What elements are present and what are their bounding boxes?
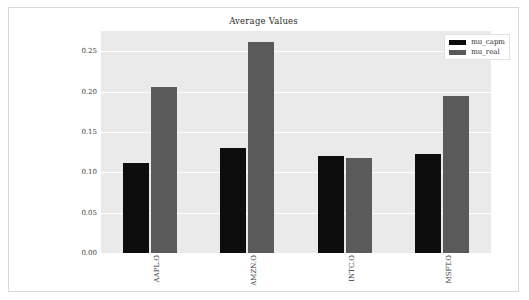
y-tick-label: 0.05 bbox=[81, 209, 97, 217]
bar-aapl-o-mu-capm bbox=[123, 163, 149, 253]
bar-group bbox=[101, 31, 199, 253]
gridline bbox=[101, 253, 491, 254]
y-tick-label: 0.15 bbox=[81, 128, 97, 136]
x-tick-label: MSFT.O bbox=[445, 255, 453, 283]
bar-msft-o-mu-capm bbox=[415, 154, 441, 253]
x-tick-label: AAPL.O bbox=[153, 255, 161, 282]
x-tick-label: INTC.O bbox=[348, 255, 356, 282]
legend-label-mu-capm: mu_capm bbox=[471, 38, 505, 46]
bar-msft-o-mu-real bbox=[443, 96, 469, 253]
figure-container: Average Values 0.000.050.100.150.200.25 … bbox=[8, 7, 519, 292]
bars-layer bbox=[101, 31, 491, 253]
x-tick-label: AMZN.O bbox=[250, 255, 258, 286]
legend-item-mu-real: mu_real bbox=[449, 47, 505, 57]
legend-swatch-icon-mu-real bbox=[449, 50, 466, 55]
bar-intc-o-mu-real bbox=[346, 158, 372, 253]
bar-aapl-o-mu-real bbox=[151, 87, 177, 253]
x-axis-tick-labels: AAPL.OAMZN.OINTC.OMSFT.O bbox=[101, 255, 491, 295]
chart-legend: mu_capm mu_real bbox=[444, 34, 510, 60]
y-tick-label: 0.20 bbox=[81, 88, 97, 96]
plot-area bbox=[101, 31, 491, 253]
y-tick-label: 0.00 bbox=[81, 249, 97, 257]
bar-group bbox=[199, 31, 297, 253]
bar-amzn-o-mu-real bbox=[248, 42, 274, 253]
legend-swatch-icon-mu-capm bbox=[449, 40, 466, 45]
bar-group bbox=[296, 31, 394, 253]
chart-title: Average Values bbox=[9, 16, 518, 26]
legend-item-mu-capm: mu_capm bbox=[449, 37, 505, 47]
legend-label-mu-real: mu_real bbox=[471, 48, 500, 56]
bar-group bbox=[394, 31, 492, 253]
y-tick-label: 0.25 bbox=[81, 47, 97, 55]
bar-amzn-o-mu-capm bbox=[220, 148, 246, 253]
y-tick-label: 0.10 bbox=[81, 168, 97, 176]
y-axis-tick-labels: 0.000.050.100.150.200.25 bbox=[61, 31, 97, 253]
bar-intc-o-mu-capm bbox=[318, 156, 344, 253]
